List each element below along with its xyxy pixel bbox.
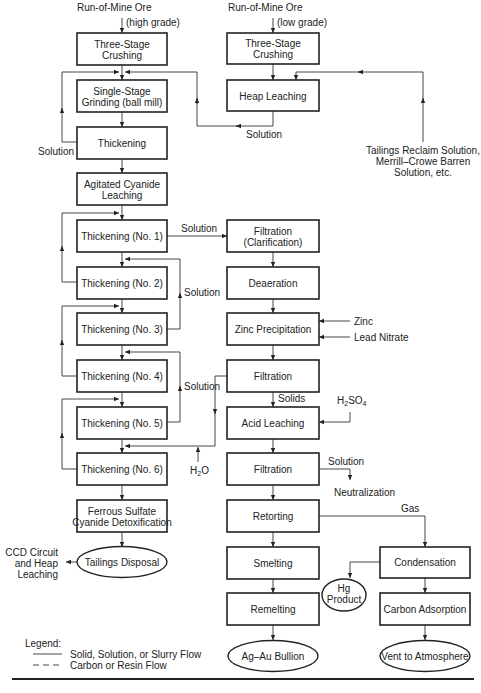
heap-leaching-box: Heap Leaching (227, 80, 319, 111)
three-stage-crushing-low-label-1: Three-Stage (245, 38, 301, 49)
ccd-line-2: and Heap (15, 558, 59, 569)
legend-dashed-label: Carbon or Resin Flow (70, 660, 167, 671)
tailings-disposal-node: Tailings Disposal (77, 547, 167, 578)
ferrous-sulfate-box: Ferrous SulfateCyanide Detoxification (72, 500, 172, 532)
thickening-box: Thickening (77, 127, 167, 159)
thickening-2-box: Thickening (No. 2) (77, 267, 167, 299)
legend-solid-label: Solid, Solution, or Slurry Flow (70, 649, 202, 660)
solution-to-filtration-label: Solution (181, 223, 217, 234)
hg-product-line-1: Hg (338, 583, 351, 594)
acid-leaching-box: Acid Leaching (227, 407, 319, 439)
bullion-node: Ag–Au Bullion (228, 641, 318, 672)
three-stage-crushing-high: Three-StageCrushing (77, 33, 167, 65)
ferrous-sulfate-box-label-1: Ferrous Sulfate (88, 506, 157, 517)
ore-low-line-1: Run-of-Mine Ore (228, 2, 303, 13)
smelting-box: Smelting (227, 547, 319, 579)
thickening-6-box-label-1: Thickening (No. 6) (81, 464, 163, 475)
tailings-reclaim-line-2: Merrill–Crowe Barren (376, 156, 470, 167)
h2so4-in-arrow (319, 412, 350, 422)
agitated-leaching-box-label-1: Agitated Cyanide (84, 179, 161, 190)
filtration-clarification-box-label-2: (Clarification) (244, 237, 303, 248)
thickening-3-box: Thickening (No. 3) (77, 313, 167, 345)
three-stage-crushing-high-label-2: Crushing (102, 50, 142, 61)
grinding-box: Single-StageGrinding (ball mill) (77, 80, 167, 112)
hg-product-node: Hg Product (322, 579, 366, 611)
ore-high-line-2: (high grade) (126, 17, 180, 28)
to-hg-product-arrow (350, 562, 380, 578)
three-stage-crushing-low: Three-StageCrushing (227, 33, 319, 64)
gas-line (319, 516, 425, 547)
deaeration-box-label-1: Deaeration (249, 278, 298, 289)
smelting-box-label-1: Smelting (254, 558, 293, 569)
zinc-precipitation-box: Zinc Precipitation (227, 313, 319, 345)
legend-title: Legend: (25, 638, 61, 649)
heap-solution-label: Solution (246, 129, 282, 140)
legend: Legend: Solid, Solution, or Slurry Flow … (25, 638, 202, 671)
retorting-box: Retorting (227, 500, 319, 532)
thickening-5-box-label-1: Thickening (No. 5) (81, 418, 163, 429)
ccd-line-1: CCD Circuit (5, 547, 58, 558)
filtration-box-1-label-1: Filtration (254, 371, 292, 382)
vent-label: Vent to Atmosphere (381, 651, 469, 662)
agitated-leaching-box-label-2: Leaching (102, 190, 143, 201)
three-stage-crushing-high-label-1: Three-Stage (94, 39, 150, 50)
thickening-2-box-label-1: Thickening (No. 2) (81, 278, 163, 289)
thickening-solution-label: Solution (38, 146, 74, 157)
neutralization-label: Neutralization (334, 487, 395, 498)
thickening-6-box: Thickening (No. 6) (77, 453, 167, 485)
filtration-clarification-box-label-1: Filtration (254, 226, 292, 237)
thickening-5-box: Thickening (No. 5) (77, 407, 167, 439)
gas-label: Gas (401, 503, 419, 514)
agitated-leaching-box: Agitated CyanideLeaching (77, 173, 167, 205)
solution-loop-2-label: Solution (184, 381, 220, 392)
condensation-box: Condensation (380, 547, 470, 578)
tailings-reclaim-line-1: Tailings Reclaim Solution, (366, 145, 480, 156)
thickening-1-box: Thickening (No. 1) (77, 220, 167, 252)
condensation-label: Condensation (394, 557, 456, 568)
tailings-reclaim-line-3: Solution, etc. (394, 167, 452, 178)
grinding-box-label-2: Grinding (ball mill) (82, 97, 163, 108)
zinc-label: Zinc (354, 316, 373, 327)
to-neutralization-arrow (319, 469, 350, 480)
filtration-box-1: Filtration (227, 360, 319, 392)
solution-neutral-label: Solution (328, 456, 364, 467)
filtration-box-2-label-1: Filtration (254, 464, 292, 475)
thickening-box-label-1: Thickening (98, 138, 146, 149)
grinding-box-label-1: Single-Stage (93, 86, 151, 97)
retorting-box-label-1: Retorting (253, 511, 294, 522)
ccd-line-3: Leaching (17, 569, 58, 580)
thickening-4-box: Thickening (No. 4) (77, 360, 167, 392)
h2o-label: H2O (190, 465, 209, 477)
recovery-column-boxes: Filtration(Clarification)DeaerationZinc … (227, 220, 319, 625)
tailings-disposal-label: Tailings Disposal (85, 557, 159, 568)
bullion-label: Ag–Au Bullion (242, 651, 305, 662)
filtration-box-2: Filtration (227, 453, 319, 485)
three-stage-crushing-low-label-2: Crushing (253, 49, 293, 60)
heap-leaching-box-label-1: Heap Leaching (239, 91, 306, 102)
h2so4-label: H2SO4 (337, 395, 367, 407)
acid-leaching-box-label-1: Acid Leaching (242, 418, 305, 429)
thickening-1-box-label-1: Thickening (No. 1) (81, 231, 163, 242)
hg-product-line-2: Product (327, 594, 362, 605)
zinc-precipitation-box-label-1: Zinc Precipitation (235, 324, 312, 335)
vent-node: Vent to Atmosphere (380, 641, 470, 672)
remelting-box-label-1: Remelting (250, 604, 295, 615)
lead-nitrate-label: Lead Nitrate (354, 332, 409, 343)
filtration-clarification-box: Filtration(Clarification) (227, 220, 319, 252)
flowsheet-diagram: Three-StageCrushingSingle-StageGrinding … (0, 0, 481, 693)
ore-low-line-2: (low grade) (277, 17, 327, 28)
remelting-box: Remelting (227, 593, 319, 625)
ferrous-sulfate-box-label-2: Cyanide Detoxification (72, 517, 172, 528)
solids-label: Solids (278, 393, 305, 404)
solution-loop-1-label: Solution (184, 287, 220, 298)
ore-high-line-1: Run-of-Mine Ore (77, 2, 152, 13)
carbon-adsorption-box: Carbon Adsorption (380, 593, 470, 625)
thickening-4-box-label-1: Thickening (No. 4) (81, 371, 163, 382)
deaeration-box: Deaeration (227, 267, 319, 299)
carbon-adsorption-label: Carbon Adsorption (384, 604, 467, 615)
left-column-boxes: Three-StageCrushingSingle-StageGrinding … (72, 33, 172, 532)
thickening-3-box-label-1: Thickening (No. 3) (81, 324, 163, 335)
